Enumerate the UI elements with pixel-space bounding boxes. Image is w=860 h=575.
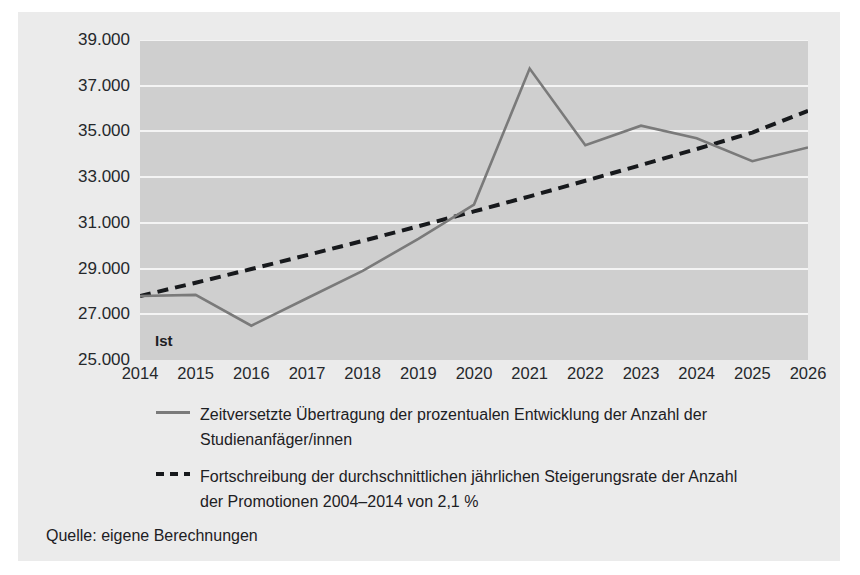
x-axis-tick: 2025: [734, 364, 771, 383]
y-axis-tick: 29.000: [78, 259, 130, 279]
y-axis-tick: 31.000: [78, 213, 130, 233]
series-overlay: [140, 40, 808, 360]
y-axis-tick: 27.000: [78, 304, 130, 324]
x-axis-tick: 2023: [623, 364, 660, 383]
x-axis-tick: 2022: [567, 364, 604, 383]
legend-label-dashed: Fortschreibung der durchschnittlichen jä…: [200, 464, 737, 514]
legend-label-solid: Zeitversetzte Übertragung der prozentual…: [200, 402, 707, 452]
x-axis-tick: 2026: [790, 364, 827, 383]
legend-label-solid-line2: Studienanfäger/innen: [200, 431, 352, 448]
legend-item-solid: Zeitversetzte Übertragung der prozentual…: [156, 402, 816, 452]
y-axis-labels: 39.00037.00035.00033.00031.00029.00027.0…: [40, 40, 136, 360]
source-note: Quelle: eigene Berechnungen: [46, 527, 258, 545]
x-axis-tick: 2018: [344, 364, 381, 383]
ist-annotation: Ist: [155, 332, 173, 349]
legend-item-dashed: Fortschreibung der durchschnittlichen jä…: [156, 464, 816, 514]
legend-swatch-solid-icon: [156, 402, 190, 422]
chart-card: 39.00037.00035.00033.00031.00029.00027.0…: [18, 12, 840, 561]
legend-swatch-dashed-icon: [156, 464, 190, 484]
series-line-solid: [140, 69, 808, 326]
legend-label-dashed-line2: der Promotionen 2004–2014 von 2,1 %: [200, 493, 478, 510]
plot-area: [140, 40, 808, 360]
y-axis-tick: 35.000: [78, 121, 130, 141]
x-axis-tick: 2021: [511, 364, 548, 383]
x-axis-tick: 2024: [678, 364, 715, 383]
x-axis-tick: 2016: [233, 364, 270, 383]
y-axis-tick: 33.000: [78, 167, 130, 187]
x-axis-tick: 2014: [122, 364, 159, 383]
x-axis-tick: 2015: [177, 364, 214, 383]
y-axis-tick: 37.000: [78, 76, 130, 96]
x-axis-tick: 2020: [456, 364, 493, 383]
legend-label-solid-line1: Zeitversetzte Übertragung der prozentual…: [200, 406, 707, 423]
x-axis-tick: 2017: [289, 364, 326, 383]
chart-page: 39.00037.00035.00033.00031.00029.00027.0…: [0, 0, 860, 575]
y-axis-tick: 39.000: [78, 30, 130, 50]
chart-legend: Zeitversetzte Übertragung der prozentual…: [156, 402, 816, 526]
x-axis-tick: 2019: [400, 364, 437, 383]
x-axis-labels: 2014201520162017201820192020202120222023…: [140, 364, 808, 390]
legend-label-dashed-line1: Fortschreibung der durchschnittlichen jä…: [200, 468, 737, 485]
